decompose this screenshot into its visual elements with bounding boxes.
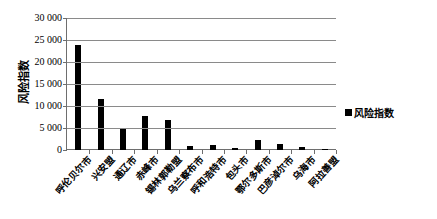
y-axis-tick xyxy=(63,106,67,107)
bar-chart: 风险指数 30 00025 00020 00015 00010 0005 000… xyxy=(0,0,437,219)
gridline xyxy=(67,18,336,19)
y-axis-tick xyxy=(63,84,67,85)
y-axis-tick xyxy=(63,62,67,63)
y-axis-tick-label: 15 000 xyxy=(35,79,63,89)
gridline xyxy=(67,106,336,107)
legend-label: 风险指数 xyxy=(354,105,394,120)
y-axis-title-text: 风险指数 xyxy=(15,60,31,104)
y-axis-tick xyxy=(63,40,67,41)
y-axis-tick-label: 0 xyxy=(57,145,62,155)
y-axis-tick-label: 10 000 xyxy=(35,101,63,111)
y-axis-tick-label: 25 000 xyxy=(35,35,63,45)
gridline xyxy=(67,40,336,41)
gridline xyxy=(67,62,336,63)
legend-swatch-icon xyxy=(345,109,352,116)
bar xyxy=(75,45,81,150)
legend: 风险指数 xyxy=(345,105,394,120)
x-axis-tick-label: 阿拉善盟 xyxy=(331,123,367,161)
x-axis-tick-labels: 呼伦贝尔市兴安盟通辽市赤峰市锡林郭勒盟乌兰察布市呼和浩特市包头市鄂尔多斯市巴彦淖… xyxy=(66,152,356,218)
y-axis-tick xyxy=(63,18,67,19)
y-axis-tick-label: 30 000 xyxy=(35,13,63,23)
y-axis-tick xyxy=(63,150,67,151)
y-axis-tick-labels: 30 00025 00020 00015 00010 0005 0000 xyxy=(30,12,62,156)
y-axis-tick-label: 5 000 xyxy=(40,123,63,133)
y-axis-tick xyxy=(63,128,67,129)
gridline xyxy=(67,84,336,85)
y-axis-tick-label: 20 000 xyxy=(35,57,63,67)
